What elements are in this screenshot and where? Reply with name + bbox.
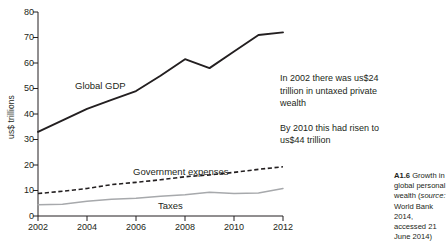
- annotation-paragraph-2: By 2010 this had risen to us$44 trillion: [280, 122, 396, 147]
- annotation-paragraph-1: In 2002 there was us$24 trillion in unta…: [280, 72, 396, 110]
- x-tick-label: 2002: [18, 222, 58, 232]
- figure-a1-6: 01020304050607080 2002200420062008201020…: [0, 0, 447, 252]
- series-label-taxes: Taxes: [158, 200, 183, 211]
- x-tick-label: 2006: [116, 222, 156, 232]
- x-axis-tick-labels: 200220042006200820102012: [0, 0, 300, 252]
- caption-source-word: source:: [421, 191, 446, 200]
- chart-annotation-text: In 2002 there was us$24 trillion in unta…: [280, 72, 396, 147]
- x-tick-label: 2012: [263, 222, 303, 232]
- x-tick-label: 2004: [67, 222, 107, 232]
- series-label-global-gdp: Global GDP: [75, 80, 126, 91]
- x-tick-label: 2010: [214, 222, 254, 232]
- caption-text-after-source: World Bank 2014, accessed 21 June 2014): [394, 202, 437, 242]
- chart-plot-area: 01020304050607080 2002200420062008201020…: [0, 0, 300, 252]
- figure-caption: A1.6 Growth in global personal wealth (s…: [394, 171, 447, 242]
- x-tick-label: 2008: [165, 222, 205, 232]
- y-axis-title: us$ trillions: [6, 77, 16, 157]
- caption-number: A1.6: [394, 171, 410, 180]
- series-label-government-expenses: Government expenses: [133, 166, 229, 177]
